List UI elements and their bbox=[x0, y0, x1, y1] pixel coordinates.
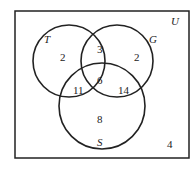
universe-label: U bbox=[171, 15, 180, 27]
region-outside: 4 bbox=[167, 138, 173, 150]
set-g-circle bbox=[81, 25, 153, 97]
region-t-g: 3 bbox=[97, 43, 103, 55]
region-g-only: 2 bbox=[134, 51, 140, 63]
region-t-only: 2 bbox=[60, 51, 66, 63]
set-t-label: T bbox=[44, 33, 51, 45]
region-g-s: 14 bbox=[118, 84, 130, 96]
set-s-label: S bbox=[97, 136, 103, 148]
set-g-label: G bbox=[149, 33, 157, 45]
region-t-s: 11 bbox=[73, 84, 84, 96]
region-t-g-s: 6 bbox=[97, 74, 103, 86]
venn-diagram: U T G S 2 2 3 6 11 14 8 4 bbox=[0, 0, 196, 170]
region-s-only: 8 bbox=[97, 113, 103, 125]
